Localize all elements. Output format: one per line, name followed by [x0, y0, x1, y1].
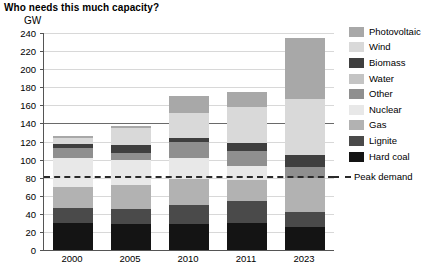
y-axis-tick [40, 33, 44, 34]
legend-swatch-icon [349, 105, 364, 115]
bar-segment-hard-coal [285, 227, 325, 251]
y-axis-tick [40, 51, 44, 52]
y-axis-tick [40, 196, 44, 197]
bar-segment-gas [227, 180, 267, 202]
legend-item-label: Other [369, 89, 393, 99]
bar-segment-hard-coal [169, 224, 209, 250]
bar-2000 [53, 136, 93, 250]
legend-item-wind[interactable]: Wind [349, 40, 432, 56]
legend-item-gas[interactable]: Gas [349, 118, 432, 134]
bar-2010 [169, 96, 209, 250]
legend-item-label: Gas [369, 120, 386, 130]
legend-swatch-icon [349, 27, 364, 37]
legend-item-label: Lignite [369, 136, 397, 146]
bar-2023 [285, 38, 325, 250]
bar-segment-hard-coal [227, 223, 267, 250]
legend-item-hard-coal[interactable]: Hard coal [349, 149, 432, 165]
bar-segment-photovoltaic [227, 92, 267, 107]
bar-segment-other [53, 148, 93, 158]
y-axis-tick [40, 142, 44, 143]
bar-segment-other [227, 151, 267, 166]
legend-item-lignite[interactable]: Lignite [349, 133, 432, 149]
bar-segment-gas [169, 179, 209, 204]
legend-item-label: Wind [369, 42, 391, 52]
y-axis-tick [40, 250, 44, 251]
y-axis-tick [40, 105, 44, 106]
legend-item-label: Nuclear [369, 105, 402, 115]
legend-swatch-icon [349, 42, 364, 52]
bar-segment-hard-coal [53, 223, 93, 250]
legend-item-other[interactable]: Other [349, 86, 432, 102]
bar-segment-biomass [111, 145, 151, 153]
y-axis-tick-label: 240 [0, 29, 36, 38]
gridline [44, 33, 334, 34]
bar-segment-lignite [111, 209, 151, 223]
y-axis-tick-label: 40 [0, 209, 36, 218]
bar-segment-wind [169, 113, 209, 138]
bar-segment-wind [111, 128, 151, 145]
y-axis-tick [40, 232, 44, 233]
bar-segment-lignite [53, 208, 93, 223]
bar-segment-lignite [227, 201, 267, 223]
y-axis-tick-label: 160 [0, 101, 36, 110]
y-axis-unit-label: GW [24, 15, 41, 26]
legend-item-label: Biomass [369, 58, 405, 68]
legend-item-label: Hard coal [369, 152, 410, 162]
y-axis-tick-label: 180 [0, 83, 36, 92]
y-axis-tick [40, 123, 44, 124]
legend-swatch-icon [349, 136, 364, 146]
y-axis-tick-label: 60 [0, 191, 36, 200]
legend-swatch-icon [349, 152, 364, 162]
bar-segment-lignite [169, 205, 209, 224]
y-axis-tick-label: 80 [0, 173, 36, 182]
bar-segment-other [169, 142, 209, 157]
y-axis-tick [40, 160, 44, 161]
legend-swatch-icon [349, 89, 364, 99]
y-axis-tick-label: 120 [0, 137, 36, 146]
peak-demand-label: Peak demand [354, 171, 413, 182]
plot-area: 020406080100120140160180200220240 [43, 33, 334, 251]
y-axis-tick-label: 200 [0, 65, 36, 74]
bar-segment-biomass [285, 155, 325, 167]
capacity-chart: Who needs this much capacity? GW 0204060… [0, 0, 432, 270]
bar-segment-gas [111, 185, 151, 209]
bar-segment-photovoltaic [169, 96, 209, 112]
y-axis-tick-label: 220 [0, 47, 36, 56]
bar-2011 [227, 92, 267, 250]
y-axis-tick [40, 87, 44, 88]
y-axis-tick [40, 69, 44, 70]
legend-item-label: Water [369, 74, 394, 84]
peak-demand-line-extension [333, 176, 351, 178]
bar-segment-gas [53, 187, 93, 208]
bar-2005 [111, 126, 151, 250]
legend-item-photovoltaic[interactable]: Photovoltaic [349, 24, 432, 40]
chart-legend: PhotovoltaicWindBiomassWaterOtherNuclear… [349, 24, 432, 164]
legend-swatch-icon [349, 120, 364, 130]
legend-swatch-icon [349, 58, 364, 68]
legend-swatch-icon [349, 74, 364, 84]
bar-segment-wind [227, 107, 267, 143]
y-axis-tick-label: 20 [0, 227, 36, 236]
y-axis-tick-label: 100 [0, 155, 36, 164]
y-axis-tick-label: 0 [0, 246, 36, 255]
peak-demand-line [44, 176, 334, 178]
legend-item-water[interactable]: Water [349, 71, 432, 87]
bar-segment-nuclear [111, 160, 151, 185]
bar-segment-nuclear [53, 158, 93, 187]
x-axis-tick-label: 2023 [269, 253, 339, 264]
bar-segment-lignite [285, 212, 325, 226]
y-axis-tick-label: 140 [0, 119, 36, 128]
legend-item-label: Photovoltaic [369, 27, 421, 37]
bar-segment-gas [285, 178, 325, 212]
legend-item-biomass[interactable]: Biomass [349, 55, 432, 71]
y-axis-tick [40, 214, 44, 215]
bar-segment-wind [285, 99, 325, 155]
bar-segment-biomass [227, 143, 267, 150]
legend-item-nuclear[interactable]: Nuclear [349, 102, 432, 118]
bar-segment-hard-coal [111, 224, 151, 250]
chart-title: Who needs this much capacity? [4, 2, 159, 13]
bar-segment-photovoltaic [285, 38, 325, 99]
